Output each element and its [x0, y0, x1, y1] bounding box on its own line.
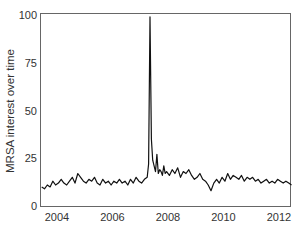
x-tick-label: 2008 [156, 211, 180, 223]
x-axis-tick-labels: 20042006200820102012 [45, 211, 291, 223]
y-tick-label: 0 [31, 200, 37, 212]
y-axis-title: MRSA interest over time [4, 49, 16, 173]
y-tick-label: 75 [25, 57, 37, 69]
y-tick-label: 100 [19, 9, 37, 21]
x-tick-label: 2006 [100, 211, 124, 223]
y-tick-label: 50 [25, 105, 37, 117]
x-tick-label: 2012 [267, 211, 291, 223]
x-tick-label: 2010 [211, 211, 235, 223]
y-axis-tick-labels: 0255075100 [19, 9, 37, 212]
line-chart: 0255075100 20042006200820102012 MRSA int… [0, 0, 301, 232]
data-series-line [42, 17, 292, 191]
x-tick-label: 2004 [45, 211, 69, 223]
y-tick-label: 25 [25, 152, 37, 164]
